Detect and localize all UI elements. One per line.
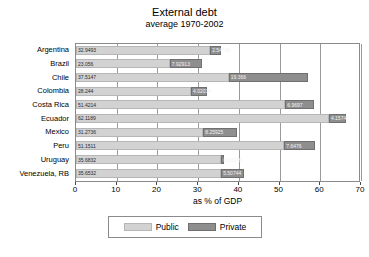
bar-segment-public[interactable]: 37.5147 [76, 73, 229, 82]
bar-segment-public[interactable]: 35.6832 [76, 155, 221, 164]
bar-value-label: 4.15745 [331, 115, 349, 121]
bar-value-label: 37.5147 [78, 74, 96, 80]
bar-rows: 32.94932.5475923.0567.9291337.514719.366… [76, 44, 359, 181]
bar-value-label: 2.54759 [212, 47, 230, 53]
stacked-bar[interactable]: 62.11894.15745 [76, 114, 346, 123]
bar-segment-private[interactable]: 0.63978 [221, 155, 224, 164]
legend-swatch-public-icon [124, 223, 152, 231]
bar-segment-public[interactable]: 35.6532 [76, 169, 221, 178]
y-axis-category-labels: ArgentinaBrazilChileColombiaCosta RicaEc… [0, 43, 72, 182]
bar-segment-public[interactable]: 28.244 [76, 87, 191, 96]
bar-row: 32.94932.54759 [76, 44, 359, 58]
bar-value-label: 51.4214 [78, 102, 96, 108]
bar-segment-public[interactable]: 31.2736 [76, 128, 203, 137]
stacked-bar[interactable]: 31.27368.25925 [76, 128, 237, 137]
bar-row: 23.0567.92913 [76, 58, 359, 72]
bar-segment-private[interactable]: 4.02036 [191, 87, 207, 96]
stacked-bar[interactable]: 28.2444.02036 [76, 87, 207, 96]
page-title: External debt [0, 6, 369, 19]
bar-value-label: 7.92913 [172, 61, 190, 67]
bar-segment-private[interactable]: 6.9697 [285, 100, 313, 109]
bar-segment-public[interactable]: 62.1189 [76, 114, 329, 123]
bar-row: 51.42146.9697 [76, 99, 359, 113]
bar-value-label: 0.63978 [223, 157, 241, 163]
bar-segment-public[interactable]: 51.4214 [76, 100, 285, 109]
bar-value-label: 35.6832 [78, 157, 96, 163]
bar-segment-private[interactable]: 7.6476 [284, 141, 315, 150]
y-axis-label: Ecuador [0, 111, 72, 125]
stacked-bar[interactable]: 51.15117.6476 [76, 141, 315, 150]
gridline [361, 44, 362, 181]
bar-value-label: 7.6476 [286, 143, 301, 149]
stacked-bar[interactable]: 23.0567.92913 [76, 59, 202, 68]
bar-row: 35.68320.63978 [76, 154, 359, 168]
bar-value-label: 23.056 [78, 61, 93, 67]
x-axis-tick-label: 50 [274, 185, 283, 195]
chart-subtitle: average 1970-2002 [0, 19, 369, 30]
stacked-bar[interactable]: 35.68320.63978 [76, 155, 224, 164]
x-axis-tick-label: 30 [193, 185, 202, 195]
stacked-bar[interactable]: 32.94932.54759 [76, 46, 221, 55]
legend-label-private: Private [220, 222, 246, 232]
bar-row: 28.2444.02036 [76, 85, 359, 99]
chart-title-block: External debt average 1970-2002 [0, 6, 369, 30]
bar-value-label: 8.25925 [205, 129, 223, 135]
bar-row: 62.11894.15745 [76, 112, 359, 126]
bar-value-label: 5.50744 [223, 170, 241, 176]
bar-value-label: 4.02036 [193, 88, 211, 94]
bar-row: 31.27368.25925 [76, 126, 359, 140]
plot-area: 32.94932.5475923.0567.9291337.514719.366… [75, 43, 360, 182]
bar-value-label: 31.2736 [78, 129, 96, 135]
x-axis-tick-label: 60 [315, 185, 324, 195]
bar-segment-private[interactable]: 5.50744 [221, 169, 243, 178]
x-axis-tick-label: 20 [152, 185, 161, 195]
bar-segment-public[interactable]: 23.056 [76, 59, 170, 68]
y-axis-label: Venezuela, RB [0, 166, 72, 180]
stacked-bar[interactable]: 37.514719.366 [76, 73, 308, 82]
y-axis-label: Uruguay [0, 153, 72, 167]
stacked-bar[interactable]: 35.65325.50744 [76, 169, 244, 178]
chart-legend: Public Private [108, 216, 262, 238]
x-axis-tick-label: 70 [356, 185, 365, 195]
bar-value-label: 51.1511 [78, 143, 96, 149]
bar-segment-private[interactable]: 19.366 [229, 73, 308, 82]
y-axis-label: Peru [0, 139, 72, 153]
bar-segment-private[interactable]: 8.25925 [203, 128, 237, 137]
legend-item-private: Private [188, 222, 246, 232]
y-axis-label: Mexico [0, 125, 72, 139]
legend-item-public: Public [124, 222, 179, 232]
legend-swatch-private-icon [188, 223, 216, 231]
bar-row: 35.65325.50744 [76, 167, 359, 181]
y-axis-label: Argentina [0, 43, 72, 57]
y-axis-label: Colombia [0, 84, 72, 98]
bar-segment-public[interactable]: 32.9493 [76, 46, 210, 55]
bar-value-label: 62.1189 [78, 115, 96, 121]
bar-segment-private[interactable]: 4.15745 [329, 114, 346, 123]
bar-value-label: 28.244 [78, 88, 93, 94]
bar-segment-private[interactable]: 7.92913 [170, 59, 202, 68]
bar-value-label: 19.366 [231, 74, 246, 80]
legend-label-public: Public [156, 222, 179, 232]
y-axis-label: Costa Rica [0, 98, 72, 112]
bar-value-label: 32.9493 [78, 47, 96, 53]
bar-row: 37.514719.366 [76, 71, 359, 85]
bar-segment-private[interactable]: 2.54759 [210, 46, 220, 55]
bar-value-label: 6.9697 [287, 102, 302, 108]
stacked-bar[interactable]: 51.42146.9697 [76, 100, 314, 109]
bar-value-label: 35.6532 [78, 170, 96, 176]
bar-row: 51.15117.6476 [76, 140, 359, 154]
y-axis-label: Brazil [0, 57, 72, 71]
bar-segment-public[interactable]: 51.1511 [76, 141, 284, 150]
x-axis-tick-label: 0 [73, 185, 77, 195]
x-axis-tick-label: 40 [233, 185, 242, 195]
x-axis-title: as % of GDP [75, 196, 360, 206]
x-axis-tick-label: 10 [111, 185, 120, 195]
chart-container: External debt average 1970-2002 Argentin… [0, 0, 369, 257]
y-axis-label: Chile [0, 70, 72, 84]
